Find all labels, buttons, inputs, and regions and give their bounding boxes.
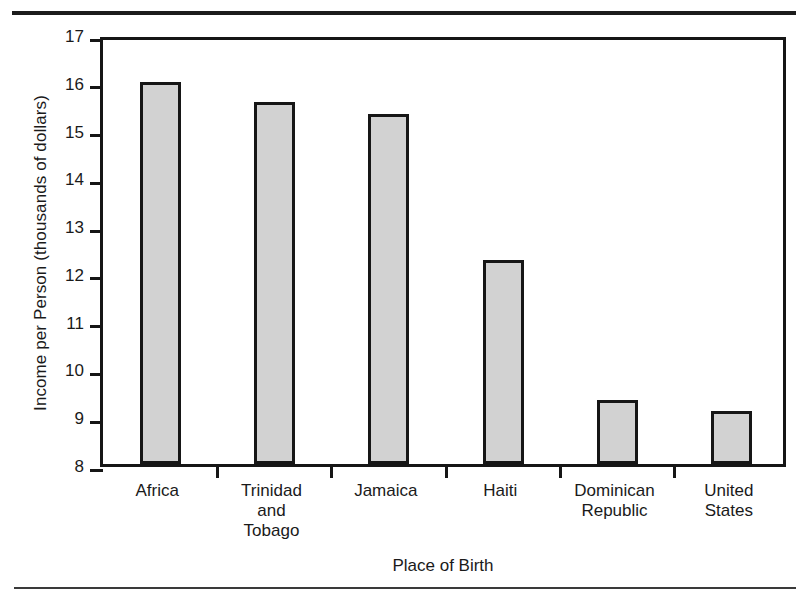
y-axis-tick [90,277,103,280]
bar [140,82,181,464]
plot-area [100,37,786,467]
y-axis-tick [90,86,103,89]
plot-inner [103,40,783,464]
x-axis-category-label: Jamaica [329,481,443,501]
x-axis-category-label-line: Haiti [443,481,557,501]
y-axis-tick-label: 15 [40,124,84,141]
y-axis-tick-label: 17 [40,28,84,45]
x-axis-category-label: DominicanRepublic [557,481,671,521]
x-axis-tick [445,464,448,478]
y-axis-tick-label: 13 [40,219,84,236]
x-axis-category-label-line: Republic [557,501,671,521]
y-axis-tick [90,39,103,42]
y-axis-tick-label: 11 [40,315,84,332]
y-axis-tick [90,421,103,424]
bottom-page-rule [14,587,796,589]
y-axis-tick [90,182,103,185]
y-axis-tick-label: 12 [40,267,84,284]
x-axis-category-label: Haiti [443,481,557,501]
x-axis-title: Place of Birth [100,556,786,576]
x-axis-category-label: UnitedStates [672,481,786,521]
x-axis-category-label-line: Dominican [557,481,671,501]
x-axis-tick [216,464,219,478]
x-axis-tick [330,464,333,478]
bar [597,400,638,465]
y-axis-tick-label: 10 [40,362,84,379]
bar [254,102,295,464]
y-axis-tick-label: 14 [40,171,84,188]
y-axis-tick [90,469,103,472]
y-axis-tick [90,134,103,137]
figure-root: Income per Person (thousands of dollars)… [0,0,808,603]
top-page-rule [12,11,796,15]
x-axis-category-label-line: Tobago [214,521,328,541]
y-axis-tick-labels: 891011121314151617 [40,37,84,467]
x-axis-category-label-line: Africa [100,481,214,501]
bar [711,411,752,464]
x-axis-category-labels: AfricaTrinidadandTobagoJamaicaHaitiDomin… [100,481,786,553]
x-axis-tick [559,464,562,478]
y-axis-tick-label: 16 [40,76,84,93]
x-axis-category-label-line: Trinidad [214,481,328,501]
x-axis-category-label: Africa [100,481,214,501]
bar [368,114,409,464]
y-axis-tick [90,230,103,233]
bar [483,260,524,464]
y-axis-tick-label: 8 [40,458,84,475]
x-axis-category-label-line: Jamaica [329,481,443,501]
y-axis-tick [90,373,103,376]
x-axis-category-label-line: United [672,481,786,501]
x-axis-tick [673,464,676,478]
x-axis-category-label-line: and [214,501,328,521]
x-axis-category-label-line: States [672,501,786,521]
x-axis-category-label: TrinidadandTobago [214,481,328,541]
y-axis-tick-label: 9 [40,410,84,427]
y-axis-tick [90,325,103,328]
